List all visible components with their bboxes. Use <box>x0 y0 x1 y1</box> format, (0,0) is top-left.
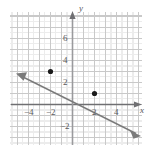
y-tick-label-pos4: 4 <box>63 56 68 65</box>
y-tick-label-neg2: −2 <box>60 122 70 131</box>
x-tick-label-pos2: 2 <box>92 108 97 117</box>
line-arrowhead-left <box>16 72 27 81</box>
x-tick-label-neg4: −4 <box>24 108 34 117</box>
data-point <box>92 91 97 96</box>
y-tick-label-pos6: 6 <box>63 34 68 43</box>
data-point <box>48 69 53 74</box>
x-tick-label-pos4: 4 <box>114 108 119 117</box>
y-axis-label: y <box>79 4 83 13</box>
x-axis-label: x <box>140 106 144 115</box>
graph-plot <box>0 0 149 154</box>
y-axis-arrowhead <box>69 11 75 19</box>
x-tick-label-neg2: −2 <box>46 108 56 117</box>
coordinate-plane-figure: y x −4 −2 2 4 6 4 2 −2 <box>0 0 149 154</box>
y-tick-label-pos2: 2 <box>63 78 68 87</box>
line-arrowhead-right <box>130 131 141 139</box>
